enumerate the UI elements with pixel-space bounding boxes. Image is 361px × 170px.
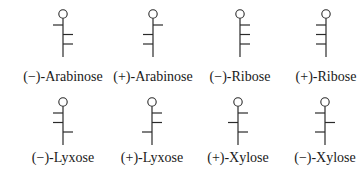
fischer-structure xyxy=(236,10,250,57)
fischer-structure xyxy=(315,98,335,145)
label-plus-lyxose: (+)-Lyxose xyxy=(121,150,183,166)
aldehyde-circle-icon xyxy=(59,98,67,106)
label-minus-ribose: (−)-Ribose xyxy=(210,69,271,85)
label-plus-xylose: (+)-Xylose xyxy=(207,150,269,166)
fischer-structure xyxy=(143,10,163,57)
pentose-fischer-diagram: (−)-Arabinose (+)-Arabinose (−)-Ribose (… xyxy=(0,0,361,170)
fischer-structure xyxy=(228,98,248,145)
fischer-structure xyxy=(53,98,73,145)
aldehyde-circle-icon xyxy=(321,98,329,106)
aldehyde-circle-icon xyxy=(322,10,330,18)
label-minus-lyxose: (−)-Lyxose xyxy=(32,150,94,166)
aldehyde-circle-icon xyxy=(234,98,242,106)
label-plus-arabinose: (+)-Arabinose xyxy=(113,69,192,85)
label-minus-arabinose: (−)-Arabinose xyxy=(23,69,102,85)
aldehyde-circle-icon xyxy=(236,10,244,18)
structures-canvas xyxy=(0,0,361,170)
aldehyde-circle-icon xyxy=(149,10,157,18)
aldehyde-circle-icon xyxy=(148,98,156,106)
label-minus-xylose: (−)-Xylose xyxy=(294,150,356,166)
fischer-structure xyxy=(53,10,73,57)
aldehyde-circle-icon xyxy=(59,10,67,18)
fischer-structure xyxy=(142,98,162,145)
label-plus-ribose: (+)-Ribose xyxy=(296,69,357,85)
fischer-structure xyxy=(316,10,330,57)
